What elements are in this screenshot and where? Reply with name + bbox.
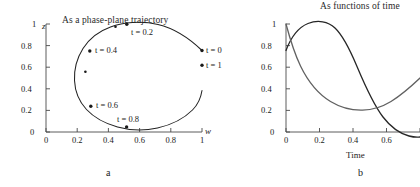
panel-b-y-tick-0.8: 0.8 — [261, 41, 272, 51]
panel-a-y-ticks — [46, 24, 50, 132]
panel-b-curve-w — [286, 24, 420, 110]
marker-t-0-2 — [125, 23, 128, 26]
panel-a-x-tick-0.2: 0.2 — [72, 135, 83, 145]
panel-b-y-tick-0: 0 — [270, 127, 274, 137]
panel-a-annotation-t-0.4: t = 0.4 — [95, 45, 117, 55]
panel-a-x-tick-0.8: 0.8 — [165, 135, 176, 145]
panel-b-x-tick-0.4: 0.4 — [348, 135, 359, 145]
panel-a-annotation-t-0.6: t = 0.6 — [96, 100, 118, 110]
panel-b-x-tick-0: 0 — [284, 135, 288, 145]
panel-a-y-axis-label: z — [42, 21, 46, 31]
panel-a-y-tick-0.4: 0.4 — [21, 84, 32, 94]
figure-container: As a phase-plane trajectory — [0, 0, 420, 187]
marker-t-0 — [200, 49, 203, 52]
panel-a-y-tick-0.2: 0.2 — [21, 105, 32, 115]
panel-b-time-series: As functions of time — [220, 0, 420, 187]
panel-a-y-tick-1: 1 — [32, 19, 36, 29]
panel-b-y-tick-0.4: 0.4 — [261, 84, 272, 94]
panel-a-phase-plane: As a phase-plane trajectory — [0, 0, 220, 187]
marker-t-1 — [200, 64, 203, 67]
panel-b-caption: b — [358, 167, 363, 178]
panel-a-y-tick-0.6: 0.6 — [21, 62, 32, 72]
panel-a-x-axis-label: w — [205, 126, 211, 136]
panel-a-y-tick-0.8: 0.8 — [21, 41, 32, 51]
panel-b-y-tick-0.2: 0.2 — [261, 105, 272, 115]
marker-t-0-4 — [88, 49, 91, 52]
panel-b-x-axis-label: Time — [346, 150, 365, 160]
marker-intermediate-2 — [84, 71, 87, 74]
panel-a-x-tick-0.6: 0.6 — [134, 135, 145, 145]
panel-a-x-tick-0: 0 — [44, 135, 48, 145]
panel-b-x-ticks — [286, 128, 420, 132]
panel-b-y-tick-0.6: 0.6 — [261, 62, 272, 72]
panel-a-x-tick-0.4: 0.4 — [103, 135, 114, 145]
panel-b-x-tick-0.2: 0.2 — [314, 135, 325, 145]
panel-a-annotation-t-0.8: t = 0.8 — [117, 114, 139, 124]
panel-b-curve-z — [286, 21, 420, 137]
marker-t-0-6 — [89, 105, 92, 108]
panel-b-y-tick-1: 1 — [272, 19, 276, 29]
panel-a-annotation-t-0.2: t = 0.2 — [131, 27, 153, 37]
panel-b-y-ticks — [286, 24, 290, 132]
marker-intermediate-1 — [114, 26, 117, 29]
panel-a-y-tick-0: 0 — [30, 127, 34, 137]
marker-t-0-8 — [125, 125, 128, 128]
panel-a-marker-points — [84, 23, 204, 129]
panel-a-caption: a — [106, 167, 110, 178]
panel-a-x-tick-1: 1 — [200, 135, 204, 145]
panel-b-plot — [220, 0, 420, 187]
panel-b-x-tick-0.6: 0.6 — [381, 135, 392, 145]
